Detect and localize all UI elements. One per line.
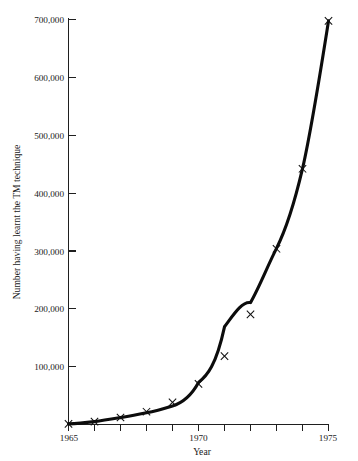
data-point-markers bbox=[65, 17, 332, 427]
chart-figure: 700,000 600,000 500,000 400,000 300,000 … bbox=[0, 0, 358, 461]
line-chart-canvas: 700,000 600,000 500,000 400,000 300,000 … bbox=[0, 0, 358, 461]
x-tick-label-1975: 1975 bbox=[319, 433, 338, 443]
y-tick-label-400000: 400,000 bbox=[34, 189, 64, 199]
y-tick-label-700000: 700,000 bbox=[34, 15, 64, 25]
y-axis-title: Number having learnt the TM technique bbox=[11, 145, 22, 300]
y-tick-label-300000: 300,000 bbox=[34, 247, 64, 257]
x-tick-label-1965: 1965 bbox=[60, 433, 79, 443]
y-tick-label-200000: 200,000 bbox=[34, 304, 64, 314]
x-axis-title: Year bbox=[193, 446, 211, 457]
x-tick-label-1970: 1970 bbox=[189, 433, 208, 443]
data-point-1972 bbox=[247, 311, 254, 318]
data-point-1971 bbox=[221, 352, 228, 359]
data-series-line bbox=[69, 21, 329, 424]
y-tick-label-500000: 500,000 bbox=[34, 131, 64, 141]
y-tick-label-100000: 100,000 bbox=[34, 362, 64, 372]
y-tick-label-600000: 600,000 bbox=[34, 73, 64, 83]
